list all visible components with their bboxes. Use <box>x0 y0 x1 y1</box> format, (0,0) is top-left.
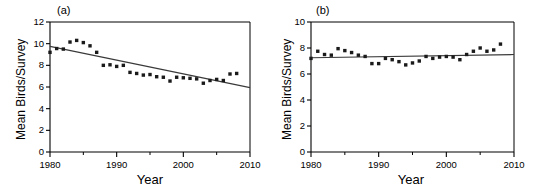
data-point-marker <box>424 55 427 58</box>
data-point-marker <box>363 55 366 58</box>
trend-line <box>50 46 250 87</box>
data-point-marker <box>115 65 118 68</box>
y-tick-label: 2 <box>18 124 44 135</box>
y-tick-label: 2 <box>279 120 305 131</box>
y-tick-label: 12 <box>18 16 44 27</box>
data-point-marker <box>195 77 198 80</box>
data-point-marker <box>323 53 326 56</box>
data-point-marker <box>478 46 481 49</box>
chart-panel-b: (b) Mean Birds/Survey Year 0246810198019… <box>266 0 533 194</box>
data-point-marker <box>142 73 145 76</box>
data-point-marker <box>377 62 380 65</box>
data-point-marker <box>451 55 454 58</box>
data-point-marker <box>68 40 71 43</box>
data-point-marker <box>235 72 238 75</box>
data-point-marker <box>168 79 171 82</box>
data-point-marker <box>122 64 125 67</box>
data-point-marker <box>350 51 353 54</box>
data-point-marker <box>62 47 65 50</box>
data-point-marker <box>148 73 151 76</box>
data-point-marker <box>95 51 98 54</box>
x-tick-label: 2010 <box>230 159 270 170</box>
y-tick-label: 8 <box>18 59 44 70</box>
trend-line <box>311 55 514 58</box>
data-point-marker <box>458 58 461 61</box>
y-tick-label: 4 <box>279 94 305 105</box>
data-point-marker <box>465 53 468 56</box>
data-point-marker <box>431 57 434 60</box>
data-point-marker <box>472 50 475 53</box>
data-point-marker <box>411 61 414 64</box>
x-tick-label: 2010 <box>494 159 533 170</box>
y-tick-label: 10 <box>18 38 44 49</box>
y-tick-label: 0 <box>279 146 305 157</box>
x-tick-label: 1980 <box>30 159 70 170</box>
y-tick-label: 0 <box>18 146 44 157</box>
chart-panel-a: (a) Mean Birds/Survey Year 0246810121980… <box>0 0 266 194</box>
data-point-marker <box>75 39 78 42</box>
y-tick-label: 6 <box>279 68 305 79</box>
data-point-marker <box>445 55 448 58</box>
x-tick-label: 1980 <box>291 159 331 170</box>
data-point-marker <box>438 55 441 58</box>
data-point-marker <box>357 53 360 56</box>
data-point-marker <box>55 47 58 50</box>
figure-container: (a) Mean Birds/Survey Year 0246810121980… <box>0 0 533 194</box>
data-point-marker <box>82 41 85 44</box>
data-point-marker <box>316 50 319 53</box>
data-point-marker <box>228 72 231 75</box>
data-point-marker <box>397 60 400 63</box>
x-tick-label: 1990 <box>97 159 137 170</box>
data-point-marker <box>499 42 502 45</box>
data-point-marker <box>370 62 373 65</box>
data-point-marker <box>330 53 333 56</box>
data-point-marker <box>418 59 421 62</box>
y-tick-label: 4 <box>18 103 44 114</box>
x-tick-label: 1990 <box>359 159 399 170</box>
data-point-marker <box>384 57 387 60</box>
data-point-marker <box>175 76 178 79</box>
data-point-marker <box>391 58 394 61</box>
data-point-marker <box>404 63 407 66</box>
data-point-marker <box>162 76 165 79</box>
data-point-marker <box>88 44 91 47</box>
data-point-marker <box>222 79 225 82</box>
data-point-marker <box>48 51 51 54</box>
data-point-marker <box>188 77 191 80</box>
data-point-marker <box>202 82 205 85</box>
y-tick-label: 8 <box>279 42 305 53</box>
data-point-marker <box>182 76 185 79</box>
data-point-marker <box>343 49 346 52</box>
data-point-marker <box>128 71 131 74</box>
x-tick-label: 2000 <box>163 159 203 170</box>
data-point-marker <box>336 47 339 50</box>
y-tick-label: 6 <box>18 81 44 92</box>
data-point-marker <box>108 63 111 66</box>
x-tick-label: 2000 <box>426 159 466 170</box>
y-tick-label: 10 <box>279 16 305 27</box>
data-point-marker <box>492 48 495 51</box>
data-point-marker <box>155 75 158 78</box>
data-point-marker <box>485 50 488 53</box>
data-point-marker <box>102 64 105 67</box>
data-point-marker <box>215 78 218 81</box>
data-point-marker <box>309 57 312 60</box>
data-point-marker <box>208 79 211 82</box>
data-point-marker <box>135 72 138 75</box>
